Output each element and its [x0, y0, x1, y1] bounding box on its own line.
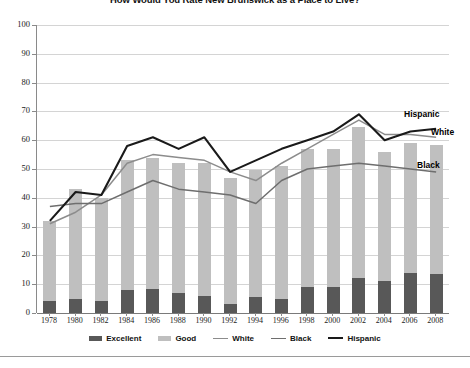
x-tick-mark-2006 [409, 313, 410, 316]
legend-item-excellent[interactable]: Excellent [89, 334, 141, 343]
x-tick-mark-1992 [229, 313, 230, 316]
y-tick-label-80: 80 [0, 77, 30, 87]
x-tick-label-1982: 1982 [87, 316, 113, 325]
x-tick-mark-1990 [203, 313, 204, 316]
y-tick-label-0: 0 [0, 307, 30, 317]
x-tick-label-1996: 1996 [268, 316, 294, 325]
legend-label: White [232, 334, 254, 343]
x-axis: 1978198019821984198619881990199219941996… [36, 313, 448, 329]
chart-page: How Would You Rate New Brunswick as a Pl… [0, 0, 470, 368]
legend-item-hispanic[interactable]: Hispanic [328, 334, 380, 343]
x-tick-mark-1988 [178, 313, 179, 316]
x-tick-mark-1996 [281, 313, 282, 316]
x-tick-label-1992: 1992 [216, 316, 242, 325]
x-tick-label-1980: 1980 [62, 316, 88, 325]
x-tick-label-1984: 1984 [113, 316, 139, 325]
y-tick-label-100: 100 [0, 19, 30, 29]
legend-swatch-white-icon [213, 338, 228, 339]
series-callout-black: Black [417, 160, 440, 170]
legend-label: Good [175, 334, 196, 343]
x-tick-label-2008: 2008 [422, 316, 448, 325]
legend-swatch-hispanic-icon [328, 337, 343, 339]
series-callout-hispanic: Hispanic [404, 109, 439, 119]
legend-item-good[interactable]: Good [158, 334, 196, 343]
footer-divider [0, 356, 470, 357]
legend-item-black[interactable]: Black [271, 334, 311, 343]
y-tick-label-30: 30 [0, 221, 30, 231]
legend-label: Excellent [106, 334, 141, 343]
x-tick-label-2002: 2002 [345, 316, 371, 325]
y-tick-label-40: 40 [0, 192, 30, 202]
legend-swatch-black-icon [271, 338, 286, 339]
x-tick-mark-1978 [49, 313, 50, 316]
x-tick-label-1986: 1986 [139, 316, 165, 325]
chart-area: 0102030405060708090100 19781980198219841… [0, 12, 470, 328]
x-tick-mark-2004 [384, 313, 385, 316]
y-axis: 0102030405060708090100 [0, 25, 36, 313]
x-tick-mark-1984 [126, 313, 127, 316]
x-tick-label-1978: 1978 [36, 316, 62, 325]
x-tick-label-1998: 1998 [293, 316, 319, 325]
y-tick-label-90: 90 [0, 48, 30, 58]
x-tick-label-1988: 1988 [165, 316, 191, 325]
y-tick-label-60: 60 [0, 134, 30, 144]
x-tick-mark-2000 [332, 313, 333, 316]
x-tick-mark-2008 [435, 313, 436, 316]
chart-legend: ExcellentGoodWhiteBlackHispanic [0, 330, 470, 346]
x-tick-label-2000: 2000 [319, 316, 345, 325]
x-tick-mark-1998 [306, 313, 307, 316]
x-tick-label-2006: 2006 [396, 316, 422, 325]
line-series-white [50, 120, 436, 224]
x-tick-mark-1994 [255, 313, 256, 316]
x-tick-mark-1986 [152, 313, 153, 316]
x-tick-label-1990: 1990 [190, 316, 216, 325]
x-tick-mark-1982 [100, 313, 101, 316]
legend-swatch-excellent-icon [89, 336, 102, 341]
legend-label: Hispanic [347, 334, 380, 343]
x-tick-label-1994: 1994 [242, 316, 268, 325]
x-tick-mark-2002 [358, 313, 359, 316]
plot-area [36, 25, 448, 313]
chart-title: How Would You Rate New Brunswick as a Pl… [0, 0, 470, 8]
x-tick-label-2004: 2004 [371, 316, 397, 325]
y-tick-label-50: 50 [0, 163, 30, 173]
legend-swatch-good-icon [158, 336, 171, 341]
series-callout-white: White [431, 127, 454, 137]
x-tick-mark-1980 [75, 313, 76, 316]
y-tick-label-10: 10 [0, 278, 30, 288]
y-tick-label-20: 20 [0, 249, 30, 259]
legend-label: Black [290, 334, 311, 343]
y-tick-label-70: 70 [0, 105, 30, 115]
line-group [37, 25, 449, 313]
legend-item-white[interactable]: White [213, 334, 254, 343]
